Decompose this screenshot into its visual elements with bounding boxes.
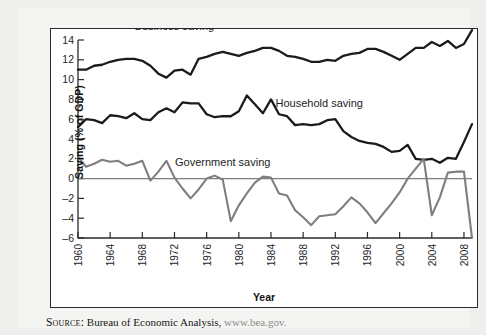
x-tick-label: 1972 xyxy=(169,244,180,267)
series-label-business-saving: Business saving xyxy=(135,28,215,32)
x-tick-label: 1964 xyxy=(105,244,116,267)
x-tick-label: 2008 xyxy=(459,244,470,267)
y-tick-label: 14 xyxy=(62,34,74,46)
source-url[interactable]: www.bea.gov. xyxy=(224,316,286,328)
series-label-government-saving: Government saving xyxy=(175,156,270,168)
axis-lines xyxy=(78,40,472,238)
series-line-business-saving xyxy=(78,30,472,78)
source-note: Source: Bureau of Economic Analysis, www… xyxy=(46,316,286,328)
figure-page: –6–4–202468101214 1960196419681972197619… xyxy=(18,8,470,328)
x-tick-label: 1960 xyxy=(73,244,84,267)
x-tick-label: 1996 xyxy=(362,244,373,267)
x-axis-title: Year xyxy=(50,291,478,303)
source-label: Source: xyxy=(46,316,84,328)
y-tick-label: –6 xyxy=(62,232,74,244)
x-tick-label: 1968 xyxy=(137,244,148,267)
x-tick-label: 1976 xyxy=(202,244,213,267)
series-label-household-saving: Household saving xyxy=(275,97,362,109)
x-tick-label: 1992 xyxy=(330,244,341,267)
x-tick-label: 1984 xyxy=(266,244,277,267)
x-tick-label: 1980 xyxy=(234,244,245,267)
y-axis-title: Saving (% of GDP) xyxy=(73,57,85,207)
y-tick-label: –4 xyxy=(62,212,74,224)
line-chart: –6–4–202468101214 1960196419681972197619… xyxy=(50,28,478,308)
series-line-government-saving xyxy=(78,157,472,238)
figure-container: –6–4–202468101214 1960196419681972197619… xyxy=(0,0,486,335)
x-tick-label: 1988 xyxy=(298,244,309,267)
x-axis-ticks: 1960196419681972197619801984198819921996… xyxy=(73,232,470,266)
x-tick-label: 2000 xyxy=(395,244,406,267)
x-tick-label: 2004 xyxy=(427,244,438,267)
source-body: Bureau of Economic Analysis, xyxy=(84,316,224,328)
